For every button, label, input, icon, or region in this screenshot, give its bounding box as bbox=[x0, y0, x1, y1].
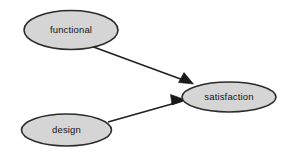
edge-design-to-satisfaction bbox=[108, 95, 186, 123]
arrowhead-icon-functional-satisfaction bbox=[179, 73, 194, 85]
edge-line-design-satisfaction bbox=[108, 101, 183, 122]
node-label-design: design bbox=[52, 124, 81, 135]
edge-line-functional-satisfaction bbox=[90, 46, 191, 83]
diagram-canvas: functional design satisfaction bbox=[0, 0, 297, 160]
node-label-functional: functional bbox=[50, 24, 92, 35]
node-label-satisfaction: satisfaction bbox=[204, 91, 253, 102]
node-satisfaction[interactable]: satisfaction bbox=[182, 82, 276, 112]
path-diagram: functional design satisfaction bbox=[0, 0, 297, 160]
node-functional[interactable]: functional bbox=[24, 11, 118, 50]
node-design[interactable]: design bbox=[22, 114, 112, 146]
edge-functional-to-satisfaction bbox=[90, 46, 194, 85]
